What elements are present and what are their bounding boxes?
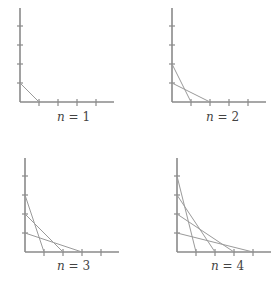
label-eq: = 2 bbox=[214, 110, 239, 124]
panel-label-n4: n = 4 bbox=[211, 259, 244, 273]
segment-line bbox=[177, 195, 215, 252]
label-var: n bbox=[206, 110, 214, 124]
label-eq: = 1 bbox=[65, 110, 90, 124]
label-eq: = 4 bbox=[219, 259, 244, 273]
segment-line bbox=[20, 83, 39, 102]
label-var: n bbox=[57, 110, 65, 124]
panel-label-n3: n = 3 bbox=[57, 259, 90, 273]
panel-n4 bbox=[174, 158, 271, 256]
panel-label-n2: n = 2 bbox=[206, 110, 239, 124]
panel-n2 bbox=[169, 8, 266, 106]
segment-line bbox=[25, 233, 82, 252]
panel-n3 bbox=[22, 158, 119, 256]
label-var: n bbox=[57, 259, 65, 273]
label-var: n bbox=[211, 259, 219, 273]
panel-n1 bbox=[17, 8, 114, 106]
diagram-canvas bbox=[0, 0, 279, 284]
segment-line bbox=[25, 214, 63, 252]
segment-line bbox=[177, 214, 234, 252]
panel-label-n1: n = 1 bbox=[57, 110, 90, 124]
label-eq: = 3 bbox=[65, 259, 90, 273]
